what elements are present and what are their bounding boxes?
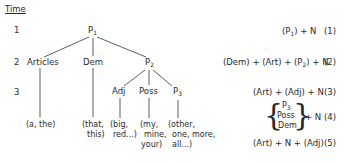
node-p1: P1 <box>88 26 97 36</box>
node-p3: P3 <box>173 87 182 97</box>
rule-4-number: (4) <box>324 113 336 122</box>
rule-1-expr: (P1) + N <box>282 27 316 37</box>
rule-3-number: (3) <box>324 88 336 97</box>
time-3: 3 <box>14 88 19 97</box>
node-adj: Adj <box>112 87 125 96</box>
leaf-p3-2: one, more, <box>172 131 215 139</box>
leaf-adj-1: (big, <box>110 121 128 129</box>
time-2: 2 <box>14 58 19 67</box>
rule-1-number: (1) <box>324 27 336 36</box>
rule-2-number: (2) <box>324 58 336 67</box>
leaf-dem-2: this) <box>87 131 105 139</box>
rule-5-expr: (Art) + N + (Adj) <box>253 139 324 148</box>
leaf-p3-1: (other, <box>168 121 195 129</box>
leaf-poss-3: your) <box>141 141 162 149</box>
leaf-articles: (a, the) <box>26 121 55 129</box>
rule-5-number: (5) <box>324 139 336 148</box>
node-dem: Dem <box>83 58 103 67</box>
leaf-adj-2: red...) <box>113 131 137 139</box>
leaf-dem-1: (that, <box>82 121 104 129</box>
time-axis-label: Time <box>5 5 26 14</box>
rule-2-expr: (Dem) + (Art) + (P2) + N <box>223 58 329 68</box>
leaf-poss-1: (my, <box>140 121 158 129</box>
rule-3-expr: (Art) + (Adj) + N <box>253 88 324 97</box>
leaf-poss-2: mine, <box>144 131 167 139</box>
node-articles: Articles <box>27 58 59 67</box>
leaf-p3-3: all...) <box>172 141 192 149</box>
time-1: 1 <box>14 26 19 35</box>
rule-4-post: + N <box>305 113 321 122</box>
node-poss: Poss <box>139 87 158 96</box>
rule-4-item-p3: P3 <box>282 102 291 111</box>
node-p2: P2 <box>145 58 154 68</box>
